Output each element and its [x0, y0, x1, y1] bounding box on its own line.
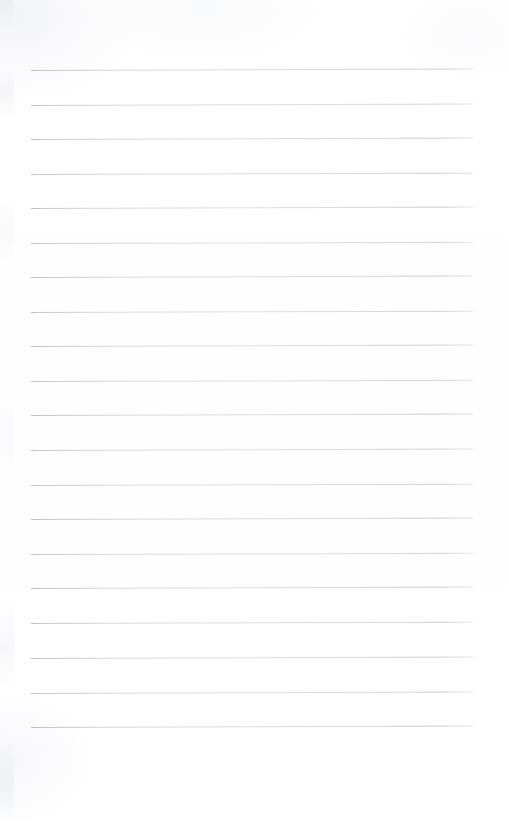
notebook-page	[0, 0, 509, 826]
page-body-text[interactable]	[31, 70, 473, 727]
